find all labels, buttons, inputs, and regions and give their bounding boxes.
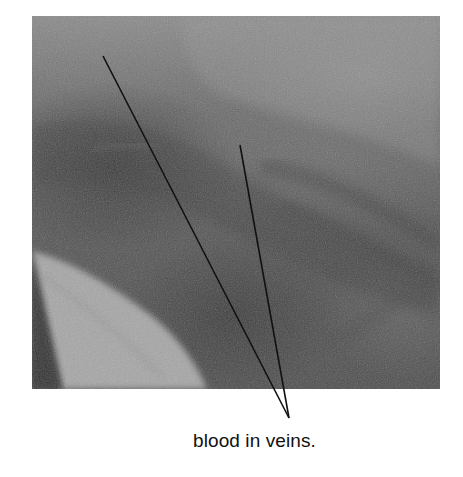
pointer-line-1 — [103, 56, 289, 418]
annotation-label: blood in veins. — [193, 430, 316, 452]
annotation-lines — [0, 0, 463, 477]
pointer-line-2 — [240, 145, 289, 418]
